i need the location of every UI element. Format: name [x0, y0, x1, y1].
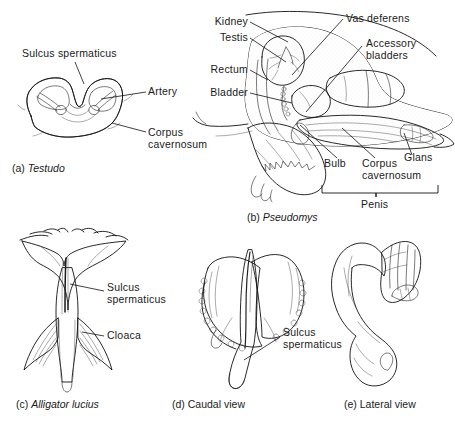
leader-a-sulcus: [75, 62, 84, 84]
label-b-glans: Glans: [404, 152, 432, 164]
label-b-bladder: Bladder: [148, 87, 248, 99]
caption-b: (b) Pseudomys: [247, 211, 318, 223]
label-d-sulcus-line2: spermaticus: [283, 339, 342, 351]
lateral-body: [332, 243, 397, 386]
caption-c: (c) Alligator lucius: [16, 398, 99, 410]
label-c-cloaca: Cloaca: [107, 330, 141, 342]
leader-c-sulcus: [70, 284, 104, 291]
alligator-cloaca-flaps: [24, 318, 112, 370]
anatomy-plate: Sulcus spermaticus Artery Corpus caverno…: [0, 0, 455, 430]
leader-d-sulcus: [244, 337, 280, 360]
label-b-rectum: Rectum: [148, 64, 248, 76]
caption-b-prefix: (b): [247, 211, 260, 223]
label-b-penis: Penis: [361, 199, 388, 211]
caption-a: (a) Testudo: [12, 162, 65, 174]
caption-d-name: Caudal view: [188, 398, 245, 410]
caption-e-prefix: (e): [344, 398, 357, 410]
caption-c-prefix: (c): [16, 398, 28, 410]
caption-b-name: Pseudomys: [263, 211, 318, 223]
leader-a-corpus: [112, 123, 146, 132]
label-b-vas-deferens: Vas deferens: [346, 13, 410, 25]
caption-e: (e) Lateral view: [344, 398, 416, 410]
caption-a-name: Testudo: [28, 162, 65, 174]
figure-c-alligator: [20, 228, 128, 392]
caption-d-prefix: (d): [172, 398, 185, 410]
caudal-crenulated-rim: [199, 257, 262, 351]
caption-c-name: Alligator lucius: [31, 398, 99, 410]
lateral-ribbed-crest: [381, 241, 421, 302]
figure-d-caudal: [199, 250, 306, 389]
label-a-sulcus-spermaticus: Sulcus spermaticus: [22, 48, 117, 60]
caption-d: (d) Caudal view: [172, 398, 245, 410]
label-b-corpus-cavernosum-line2: cavernosum: [362, 170, 421, 182]
caudal-central-ridge: [229, 250, 257, 389]
caption-e-name: Lateral view: [360, 398, 416, 410]
caption-a-prefix: (a): [12, 162, 25, 174]
figure-a-testudo: [18, 78, 133, 137]
alligator-shaft: [56, 258, 78, 392]
label-a-corpus-cavernosum-line2: cavernosum: [148, 139, 207, 151]
label-c-sulcus-line2: spermaticus: [107, 294, 166, 306]
figure-e-lateral: [332, 241, 421, 385]
label-b-kidney: Kidney: [148, 16, 248, 28]
label-b-testis: Testis: [148, 32, 248, 44]
label-b-accessory-bladders-line2: bladders: [366, 50, 408, 62]
testudo-artery-left: [37, 93, 66, 115]
leader-a-artery: [101, 92, 146, 99]
label-b-bulb: Bulb: [324, 158, 346, 170]
